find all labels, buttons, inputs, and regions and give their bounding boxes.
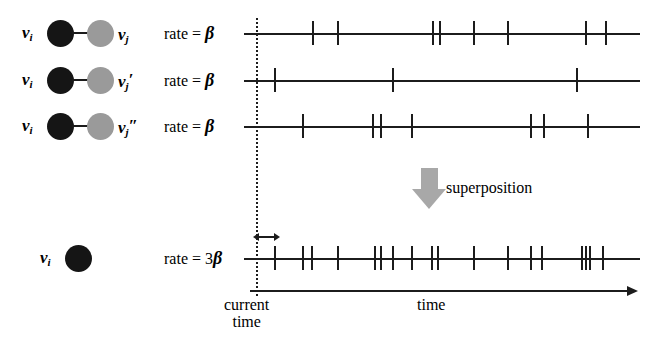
event-tick-superposed-6 (392, 246, 394, 270)
time-axis-label: time (417, 297, 445, 314)
event-tick-superposed-8 (431, 246, 433, 270)
event-tick-superposed-17 (602, 246, 604, 270)
current-time-line (256, 18, 258, 296)
event-tick-superposed-0 (274, 246, 276, 270)
figure-superposition-diagram: vi vj rate = β vi vj′ rate = β vi vj″ ra… (0, 0, 650, 357)
event-tick-superposed-14 (581, 246, 583, 270)
waiting-time-arrow-line (258, 236, 275, 238)
event-tick-superposed-9 (437, 246, 439, 270)
superposed-event-ticks (0, 0, 650, 357)
event-tick-superposed-4 (374, 246, 376, 270)
current-time-caption: current time (224, 297, 269, 331)
current-time-caption-line1: current (224, 297, 269, 314)
event-tick-superposed-13 (541, 246, 543, 270)
event-tick-superposed-2 (311, 246, 313, 270)
waiting-time-arrow-head-right (274, 233, 280, 241)
event-tick-superposed-12 (530, 246, 532, 270)
event-tick-superposed-11 (507, 246, 509, 270)
event-tick-superposed-10 (473, 246, 475, 270)
time-axis-line (250, 290, 628, 292)
event-tick-superposed-5 (380, 246, 382, 270)
current-time-caption-line2: time (224, 314, 269, 331)
event-tick-superposed-16 (589, 246, 591, 270)
event-tick-superposed-15 (585, 246, 587, 270)
event-tick-superposed-7 (411, 246, 413, 270)
event-tick-superposed-1 (302, 246, 304, 270)
event-tick-superposed-3 (337, 246, 339, 270)
time-axis-arrowhead (627, 286, 638, 296)
